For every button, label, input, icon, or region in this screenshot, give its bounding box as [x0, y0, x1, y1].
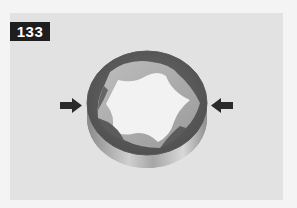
figure-number-badge: 133: [10, 22, 50, 41]
arrow-left-icon: [211, 98, 233, 113]
arrow-right-icon: [60, 98, 82, 113]
